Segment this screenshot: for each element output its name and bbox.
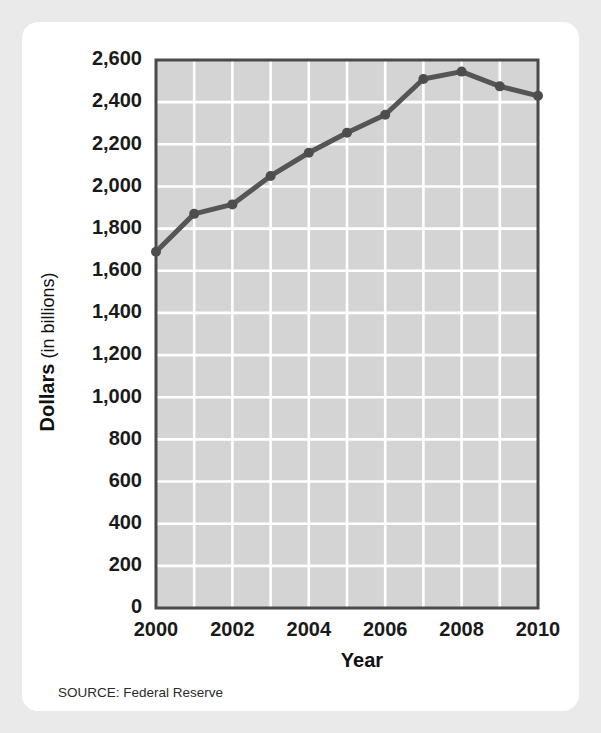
x-axis-tick-labels: 200020022004200620082010	[134, 618, 561, 640]
y-axis-title: Dollars (in billions)	[36, 273, 58, 432]
y-axis-tick-label: 200	[109, 553, 142, 575]
y-axis-tick-label: 1,400	[92, 300, 142, 322]
data-point-marker	[227, 199, 237, 209]
y-axis-tick-label: 1,800	[92, 216, 142, 238]
y-axis-tick-label: 0	[131, 595, 142, 617]
y-axis-tick-label: 2,200	[92, 132, 142, 154]
data-point-marker	[495, 81, 505, 91]
data-point-marker	[380, 110, 390, 120]
svg-text:Dollars (in billions): Dollars (in billions)	[36, 273, 58, 432]
y-axis-tick-label: 600	[109, 469, 142, 491]
y-axis-tick-label: 1,200	[92, 342, 142, 364]
data-point-marker	[418, 74, 428, 84]
x-axis-tick-label: 2000	[134, 618, 179, 640]
x-axis-tick-label: 2010	[516, 618, 561, 640]
y-axis-tick-label: 400	[109, 511, 142, 533]
figure-card: 02004006008001,0001,2001,4001,6001,8002,…	[22, 22, 579, 711]
data-point-marker	[304, 148, 314, 158]
y-axis-tick-label: 2,600	[92, 47, 142, 69]
y-axis-title-sub: (in billions)	[38, 273, 58, 364]
y-axis-tick-label: 1,600	[92, 258, 142, 280]
data-point-marker	[151, 247, 161, 257]
data-point-marker	[189, 209, 199, 219]
x-axis-tick-label: 2008	[439, 618, 484, 640]
y-axis-tick-label: 2,000	[92, 174, 142, 196]
y-axis-tick-label: 2,400	[92, 89, 142, 111]
x-axis-tick-label: 2002	[210, 618, 255, 640]
x-axis-title: Year	[341, 649, 383, 671]
y-axis-title-bold: Dollars	[36, 364, 58, 432]
data-point-marker	[533, 91, 543, 101]
chart-region: 02004006008001,0001,2001,4001,6001,8002,…	[22, 22, 579, 711]
data-point-marker	[342, 128, 352, 138]
y-axis-tick-labels: 02004006008001,0001,2001,4001,6001,8002,…	[92, 47, 142, 617]
source-note: SOURCE: Federal Reserve	[58, 685, 223, 700]
y-axis-tick-label: 800	[109, 427, 142, 449]
data-point-marker	[457, 67, 467, 77]
y-axis-tick-label: 1,000	[92, 385, 142, 407]
data-point-marker	[266, 171, 276, 181]
x-axis-tick-label: 2004	[287, 618, 332, 640]
x-axis-tick-label: 2006	[363, 618, 408, 640]
line-chart: 02004006008001,0001,2001,4001,6001,8002,…	[22, 22, 579, 711]
